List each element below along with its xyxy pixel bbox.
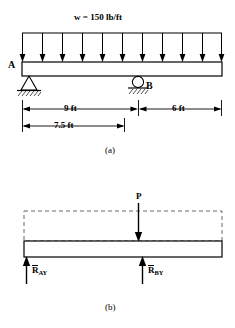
pin-support-a — [17, 76, 41, 96]
panel-a-graphics — [17, 33, 224, 132]
panel-caption-a: (a) — [105, 146, 115, 155]
distributed-load-label: w = 150 lb/ft — [74, 13, 122, 22]
point-load-label-p: P — [136, 192, 142, 201]
reaction-symbol-r: R — [32, 266, 39, 275]
dimension-9ft — [23, 107, 139, 112]
load-arrow — [60, 33, 66, 62]
load-arrow — [200, 33, 206, 62]
load-arrow — [40, 33, 46, 62]
support-a-label: A — [8, 60, 15, 70]
reaction-label-by: RBY — [148, 266, 164, 275]
dimension-label-9ft: 9 ft — [64, 104, 77, 113]
reaction-arrow-ay — [23, 256, 30, 284]
load-arrow — [80, 33, 86, 62]
reaction-label-ay: RAY — [32, 266, 47, 275]
distributed-load-arrows — [20, 33, 225, 62]
beam-body-b — [24, 241, 222, 257]
load-arrow — [160, 33, 166, 62]
engineering-figure: w = 150 lb/ft A B 9 ft 6 ft 7.5 ft (a) P… — [0, 0, 235, 328]
panel-caption-b: (b) — [105, 303, 116, 312]
load-arrow — [100, 33, 106, 62]
support-b-label: B — [146, 81, 153, 91]
reaction-subscript-ay: AY — [39, 269, 48, 276]
figure-graphics — [0, 0, 235, 328]
reaction-symbol-r: R — [148, 266, 155, 275]
dimension-extension-lines — [23, 100, 222, 132]
load-arrow — [20, 33, 26, 62]
load-arrow — [180, 33, 186, 62]
load-arrow — [219, 33, 225, 62]
dimension-7-5ft — [23, 124, 125, 129]
load-arrow — [140, 33, 146, 62]
reaction-arrow-by — [139, 256, 146, 284]
reaction-subscript-by: BY — [155, 269, 164, 276]
dimension-label-7-5ft: 7.5 ft — [54, 121, 74, 130]
panel-b-graphics — [23, 203, 222, 284]
point-load-arrow-p — [135, 203, 142, 242]
dimension-label-6ft: 6 ft — [172, 104, 185, 113]
load-arrow — [120, 33, 126, 62]
beam-body-a — [22, 62, 222, 76]
dashed-load-region — [24, 211, 222, 241]
roller-support-b — [128, 76, 148, 94]
